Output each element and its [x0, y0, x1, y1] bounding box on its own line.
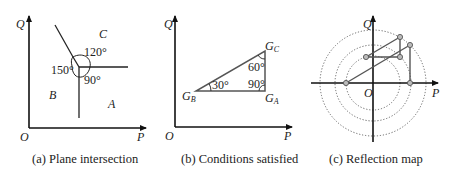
panel-a-plane-intersection: Q O P C 120° 150° 90° B A (a) Plane inte… [16, 16, 146, 166]
vertex-gb-label: GB [182, 89, 196, 104]
angle-30-label: 30° [212, 78, 229, 92]
point [407, 80, 412, 85]
boundary-junction [73, 57, 79, 67]
point [397, 34, 402, 39]
caption-b: (b) Conditions satisfied [181, 152, 299, 166]
vertex-gc-label: GC [265, 39, 280, 54]
q-axis-label: Q [164, 17, 173, 31]
origin-label: O [165, 129, 174, 143]
q-axis-label: Q [363, 17, 372, 31]
region-a-label: A [107, 97, 116, 111]
p-axis-label: P [283, 129, 292, 143]
angle-arc-60 [258, 55, 265, 59]
region-b-label: B [49, 88, 57, 102]
caption-a: (a) Plane intersection [32, 152, 139, 166]
angle-120-label: 120° [84, 45, 107, 59]
caption-c: (c) Reflection map [329, 152, 423, 166]
point [363, 54, 368, 59]
panel-b-conditions-satisfied: Q O P 30° 60° 90° GB GA GC (b) Condition… [164, 16, 299, 166]
boundary-bc [55, 25, 73, 57]
p-axis-label: P [136, 130, 145, 144]
p-axis-label: P [431, 86, 440, 100]
angle-90-label: 90° [84, 73, 101, 87]
point [397, 54, 402, 59]
figure-canvas: Q O P C 120° 150° 90° B A (a) Plane inte… [0, 0, 457, 174]
vertex-ga-label: GA [265, 91, 279, 106]
angle-150-label: 150° [51, 63, 74, 77]
point [343, 80, 348, 85]
panel-c-reflection-map: Q O P (c) Reflection map [311, 16, 440, 166]
q-axis-label: Q [16, 17, 25, 31]
origin-label: O [364, 86, 373, 100]
angle-90-label: 90° [248, 77, 265, 91]
angle-60-label: 60° [248, 60, 265, 74]
region-c-label: C [99, 27, 108, 41]
angle-arc-30 [209, 84, 211, 92]
origin-label: O [20, 130, 29, 144]
point [407, 42, 412, 47]
